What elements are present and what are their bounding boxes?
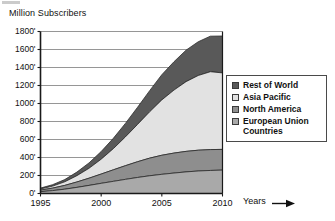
legend-item: North America xyxy=(231,104,322,114)
y-tick-label: 1800' xyxy=(2,26,36,36)
legend-swatch-icon xyxy=(232,82,239,89)
legend-item-label: Asia Pacific xyxy=(243,92,291,102)
legend-item: Asia Pacific xyxy=(231,92,322,102)
legend-item-label: Rest of World xyxy=(243,80,298,90)
legend-swatch-icon xyxy=(232,106,239,113)
y-tick-label: 600' xyxy=(2,134,36,144)
y-tick-label: 800' xyxy=(2,116,36,126)
legend-swatch-icon xyxy=(232,118,239,125)
y-tick-label: 1600' xyxy=(2,44,36,54)
legend-item-label: European Union Countries xyxy=(243,116,309,136)
x-tick-label: 2010 xyxy=(205,198,241,208)
x-tick-label: 2005 xyxy=(144,198,180,208)
legend-item: European Union Countries xyxy=(231,116,322,136)
x-axis-title: Years xyxy=(243,196,266,206)
legend-swatch-icon xyxy=(232,94,239,101)
legend-item-label: North America xyxy=(243,104,301,114)
area-series-group xyxy=(41,36,223,194)
x-tick-label: 1995 xyxy=(23,198,59,208)
y-tick-label: 1200' xyxy=(2,80,36,90)
legend-item: Rest of World xyxy=(231,80,322,90)
x-tick-label: 2000 xyxy=(83,198,119,208)
arrow-right-icon xyxy=(272,199,296,208)
y-tick-label: 1000' xyxy=(2,98,36,108)
chart-legend: Rest of WorldAsia PacificNorth AmericaEu… xyxy=(226,75,327,142)
chart-figure: Million Subscribers 0'200'400'600'800'10… xyxy=(0,0,335,221)
y-tick-label: 400' xyxy=(2,152,36,162)
y-tick-label: 1400' xyxy=(2,62,36,72)
y-tick-label: 200' xyxy=(2,170,36,180)
y-tick-label: 0' xyxy=(2,188,36,198)
